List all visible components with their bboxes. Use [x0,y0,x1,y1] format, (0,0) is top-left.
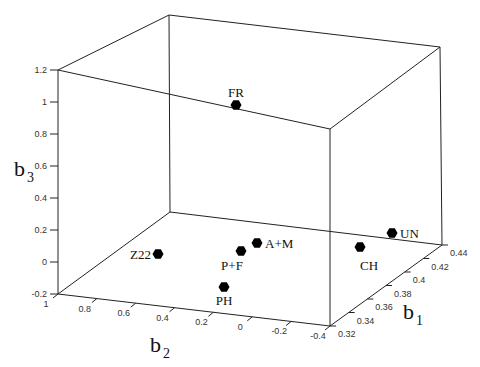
z-tick-label: 1 [42,97,47,107]
z-tick-label: 0.2 [34,225,47,235]
point-label: A+M [265,236,294,251]
x-tick-label: 0.6 [117,308,130,318]
x-tick-label: -0.4 [310,331,326,341]
z-tick-label: 0 [42,257,47,267]
data-point: A+M [252,236,294,251]
hexagon-marker-icon [355,242,366,252]
hexagon-marker-icon [219,282,230,292]
hexagon-marker-icon [252,238,263,248]
hexagon-marker-icon [153,249,164,259]
svg-text:b: b [150,332,161,357]
y-axis-label: b 1 [403,299,423,328]
y-tick-label: 0.44 [450,248,468,258]
data-point: P+F [221,246,246,273]
data-point: Z22 [130,247,163,262]
y-tick-label: 0.36 [375,302,393,312]
x-tick-label: 0.8 [79,304,92,314]
svg-text:b: b [403,299,414,324]
svg-text:1: 1 [416,313,423,328]
hexagon-marker-icon [231,100,242,110]
svg-text:b: b [14,156,25,181]
point-label: P+F [221,258,243,273]
point-label: PH [216,293,233,308]
x-axis-ticks: 10.80.60.40.20-0.2-0.4 [43,294,330,341]
data-point: FR [228,85,244,110]
z-tick-label: 0.6 [34,161,47,171]
y-tick-label: 0.42 [431,262,449,272]
y-tick-label: 0.32 [338,329,356,339]
x-tick-label: 1 [43,299,48,309]
3d-scatter-chart: -0.200.20.40.60.811.2 10.80.60.40.20-0.2… [0,0,480,367]
point-label: CH [360,258,378,273]
data-points: FRUNCHA+MP+FZ22PH [130,85,419,308]
x-axis-label: b 2 [150,332,170,361]
z-tick-label: 1.2 [34,65,47,75]
z-axis-ticks: -0.200.20.40.60.811.2 [31,65,58,299]
data-point: PH [216,282,233,308]
point-label: FR [228,85,244,100]
hexagon-marker-icon [387,228,398,238]
svg-text:3: 3 [27,170,34,185]
point-label: UN [400,226,419,241]
x-tick-label: 0.4 [156,313,169,323]
z-tick-label: 0.8 [34,129,47,139]
y-axis-ticks: 0.320.340.360.380.40.420.44 [330,245,468,339]
data-point: CH [355,242,379,273]
x-tick-label: -0.2 [271,326,287,336]
z-axis-label: b 3 [14,156,34,185]
bounding-box [58,15,442,326]
y-tick-label: 0.34 [357,316,375,326]
z-tick-label: 0.4 [34,193,47,203]
y-tick-label: 0.38 [394,289,412,299]
x-tick-label: 0.2 [195,317,208,327]
svg-text:2: 2 [163,346,170,361]
point-label: Z22 [130,247,151,262]
x-tick-label: 0 [238,322,243,332]
y-tick-label: 0.4 [413,275,426,285]
z-tick-label: -0.2 [31,289,47,299]
hexagon-marker-icon [236,246,247,256]
